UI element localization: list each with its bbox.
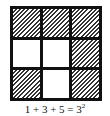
square-grid-diagram	[10, 6, 102, 101]
equation-text: 1 + 3 + 5 = 3	[25, 103, 82, 115]
grid-cell-blank	[13, 40, 40, 68]
grid-cell-hatched	[13, 9, 40, 37]
grid-cell-hatched	[72, 40, 99, 68]
grid-cell-hatched	[13, 70, 40, 98]
grid-cell-hatched	[72, 9, 99, 37]
grid-cell-hatched	[43, 9, 70, 37]
grid-cell-blank	[43, 40, 70, 68]
equation-exponent: 2	[82, 102, 86, 110]
grid-cell-hatched	[72, 70, 99, 98]
equation-caption: 1 + 3 + 5 = 32	[0, 102, 110, 115]
grid-cell-blank	[43, 70, 70, 98]
